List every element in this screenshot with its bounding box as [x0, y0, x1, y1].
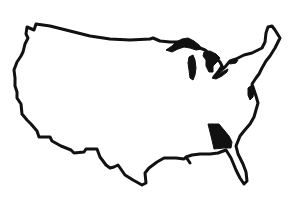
us-outline — [14, 24, 280, 185]
us-map-svg — [0, 0, 306, 208]
us-map: United States outline map Georgia — [0, 0, 306, 208]
